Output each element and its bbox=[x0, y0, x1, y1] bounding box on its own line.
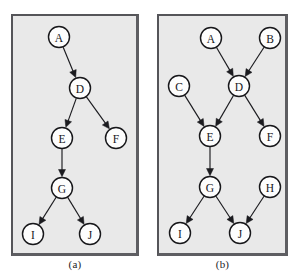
graph-edge-E-to-G bbox=[59, 149, 66, 177]
node-label-E: E bbox=[58, 133, 65, 145]
arrowhead-icon bbox=[197, 118, 204, 126]
graph-node-G[interactable]: G bbox=[52, 178, 73, 199]
node-label-G: G bbox=[58, 183, 66, 195]
graph-b: ABCDEFGHIJ bbox=[159, 16, 290, 258]
panel-a-caption: (a) bbox=[11, 258, 139, 270]
graph-edge-A-to-D bbox=[217, 48, 234, 77]
node-label-I: I bbox=[178, 228, 182, 240]
node-label-H: H bbox=[266, 182, 274, 194]
graph-edge-D-to-F bbox=[245, 95, 264, 126]
arrowhead-icon bbox=[102, 121, 109, 129]
graph-edge-E-to-G bbox=[207, 147, 214, 176]
graph-edge-B-to-D bbox=[245, 47, 264, 76]
arrowhead-icon bbox=[65, 119, 72, 127]
graph-node-F[interactable]: F bbox=[260, 126, 281, 147]
graph-edge-G-to-J bbox=[68, 197, 84, 224]
node-label-C: C bbox=[175, 81, 183, 93]
graph-edge-G-to-I bbox=[186, 196, 204, 223]
node-label-A: A bbox=[55, 32, 64, 44]
graph-edge-C-to-E bbox=[185, 95, 204, 126]
node-label-J: J bbox=[88, 229, 93, 241]
node-label-D: D bbox=[76, 83, 84, 95]
graph-node-J[interactable]: J bbox=[80, 224, 101, 245]
graph-node-D[interactable]: D bbox=[229, 76, 250, 97]
graph-node-E[interactable]: E bbox=[200, 126, 221, 147]
arrowhead-icon bbox=[39, 216, 46, 224]
arrowhead-icon bbox=[59, 170, 66, 177]
graph-node-A[interactable]: A bbox=[201, 28, 222, 49]
arrowhead-icon bbox=[257, 118, 264, 126]
graph-node-J[interactable]: J bbox=[230, 223, 251, 244]
node-label-G: G bbox=[206, 182, 214, 194]
node-label-F: F bbox=[113, 133, 119, 145]
arrowhead-icon bbox=[70, 70, 76, 78]
graph-node-H[interactable]: H bbox=[260, 177, 281, 198]
graph-edge-D-to-E bbox=[65, 98, 76, 127]
figure-root: ADEFGIJ (a) ABCDEFGHIJ (b) bbox=[0, 0, 298, 279]
node-label-I: I bbox=[31, 229, 35, 241]
graph-node-B[interactable]: B bbox=[260, 28, 281, 49]
node-label-D: D bbox=[235, 81, 243, 93]
node-label-F: F bbox=[267, 131, 273, 143]
arrowhead-icon bbox=[207, 169, 214, 176]
graph-node-I[interactable]: I bbox=[23, 224, 44, 245]
graph-node-G[interactable]: G bbox=[200, 177, 221, 198]
graph-edge-D-to-F bbox=[86, 97, 109, 129]
diagram-panel-b: ABCDEFGHIJ bbox=[157, 14, 288, 256]
graph-edge-G-to-J bbox=[216, 196, 234, 223]
node-label-A: A bbox=[207, 33, 216, 45]
graph-node-I[interactable]: I bbox=[170, 223, 191, 244]
panel-b-caption: (b) bbox=[157, 258, 288, 270]
graph-node-D[interactable]: D bbox=[70, 78, 91, 99]
graph-node-E[interactable]: E bbox=[52, 128, 73, 149]
node-label-J: J bbox=[238, 228, 243, 240]
graph-node-C[interactable]: C bbox=[169, 76, 190, 97]
arrowhead-icon bbox=[186, 216, 193, 224]
graph-edge-G-to-I bbox=[39, 197, 56, 224]
graph-node-A[interactable]: A bbox=[49, 27, 70, 48]
graph-a: ADEFGIJ bbox=[13, 16, 141, 258]
graph-edge-A-to-D bbox=[63, 47, 76, 77]
arrowhead-icon bbox=[227, 216, 234, 224]
node-label-E: E bbox=[206, 131, 213, 143]
graph-edge-D-to-E bbox=[216, 96, 234, 127]
graph-node-F[interactable]: F bbox=[106, 128, 127, 149]
diagram-panel-a: ADEFGIJ bbox=[11, 14, 139, 256]
arrowhead-icon bbox=[77, 216, 84, 224]
arrowhead-icon bbox=[246, 216, 253, 224]
node-label-B: B bbox=[266, 33, 274, 45]
arrowhead-icon bbox=[245, 69, 252, 77]
graph-edge-H-to-J bbox=[246, 196, 264, 223]
